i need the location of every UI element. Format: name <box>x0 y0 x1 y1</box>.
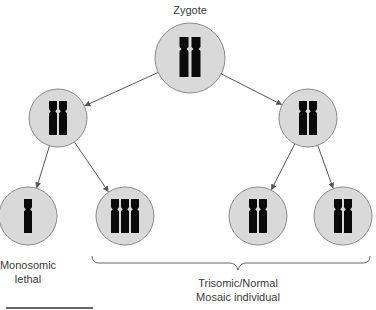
cell-circle <box>279 89 337 147</box>
arrow-daughter-right-to-normal-cell-2 <box>318 145 333 187</box>
arrow-daughter-right-to-normal-cell-1 <box>272 144 295 189</box>
cell-circle <box>314 187 372 245</box>
daughter-right <box>279 89 337 147</box>
cell-circle <box>229 187 287 245</box>
arrow-daughter-left-to-monosomic-cell <box>37 146 50 188</box>
zygote <box>155 23 225 93</box>
chromosome <box>121 199 129 233</box>
chromosome <box>344 199 352 233</box>
mosaic-label-line2: Mosaic individual <box>196 291 280 303</box>
chromosome <box>192 37 201 77</box>
monosomic-label-line1: Monosomic <box>0 259 57 271</box>
chromosome <box>299 101 307 135</box>
mosaic-bracket <box>92 256 370 270</box>
chromosome <box>249 199 257 233</box>
normal-cell-2 <box>314 187 372 245</box>
monosomic-cell <box>0 187 57 245</box>
chromosome <box>131 199 139 233</box>
normal-cell-1 <box>229 187 287 245</box>
daughter-left <box>29 89 87 147</box>
cells <box>0 23 372 245</box>
trisomic-cell <box>96 187 154 245</box>
chromosome <box>24 199 32 233</box>
chromosome <box>49 101 57 135</box>
chromosome <box>334 199 342 233</box>
cell-circle <box>155 23 225 93</box>
arrow-zygote-to-daughter-left <box>85 72 158 105</box>
nondisjunction-diagram: Zygote Monosomic lethal Trisomic/Normal … <box>0 0 376 310</box>
mosaic-label-line1: Trisomic/Normal <box>198 277 278 289</box>
chromosome <box>259 199 267 233</box>
chromosome <box>111 199 119 233</box>
zygote-label: Zygote <box>173 4 207 16</box>
arrow-daughter-left-to-trisomic-cell <box>74 142 108 191</box>
cell-circle <box>29 89 87 147</box>
chromosome <box>309 101 317 135</box>
monosomic-label-line2: lethal <box>15 273 41 285</box>
arrow-zygote-to-daughter-right <box>221 74 281 105</box>
chromosome <box>59 101 67 135</box>
chromosome <box>180 37 189 77</box>
